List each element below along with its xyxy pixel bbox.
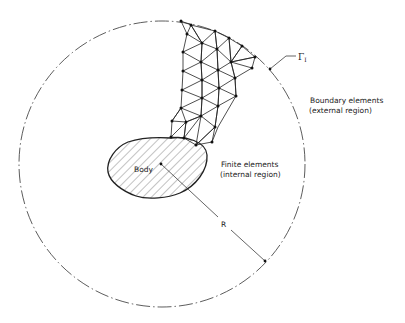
- boundary-elements-sublabel: (external region): [309, 106, 372, 115]
- finite-elements-label: Finite elements: [221, 160, 279, 169]
- diagram-canvas: ΓI Boundary elements (external region) F…: [0, 0, 405, 323]
- radius-line-b: [231, 230, 265, 261]
- finite-element-mesh: [171, 21, 255, 145]
- interface-label: ΓI: [298, 52, 307, 63]
- finite-elements-sublabel: (internal region): [220, 170, 281, 179]
- body-shape: [108, 138, 207, 199]
- interface-leader-dot: [269, 68, 272, 71]
- boundary-elements-label: Boundary elements: [310, 96, 383, 105]
- radius-label: R: [221, 220, 226, 229]
- body-label: Body: [134, 165, 153, 174]
- radius-end-dot: [264, 260, 267, 263]
- body-center-dot: [160, 163, 163, 166]
- interface-leader-line: [270, 56, 296, 69]
